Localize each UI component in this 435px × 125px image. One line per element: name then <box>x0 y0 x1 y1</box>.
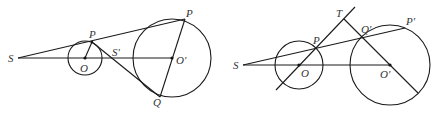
right-figure: S T P O Q' P' O' <box>233 7 430 105</box>
label-O-prime: O' <box>176 54 187 66</box>
center-point-O <box>83 56 86 59</box>
line-T-O-prime <box>344 19 418 93</box>
label-T: T <box>336 7 343 19</box>
label-O: O <box>301 67 309 79</box>
secant-line-S-P-prime <box>243 28 405 65</box>
diagram-canvas: S P O S' P O' Q S T P O Q' P' O' <box>0 0 435 125</box>
line-through-O-P-T <box>276 7 355 90</box>
label-S: S <box>8 52 14 64</box>
left-figure: S P O S' P O' Q <box>8 7 211 108</box>
line-P-Q <box>92 42 160 97</box>
point-P <box>91 41 93 43</box>
label-Q: Q <box>153 96 161 108</box>
radius-OP <box>85 42 92 58</box>
label-O: O <box>80 62 88 74</box>
label-P-big: P <box>185 7 193 19</box>
label-P-prime: P' <box>405 15 416 27</box>
center-point-O-prime <box>388 63 391 66</box>
label-P-small: P <box>88 28 96 40</box>
label-Q-prime: Q' <box>361 23 372 35</box>
label-P: P <box>312 34 320 46</box>
label-S: S <box>233 59 239 71</box>
center-point-O-prime <box>170 56 173 59</box>
label-O-prime: O' <box>380 68 391 80</box>
label-S-prime: S' <box>112 46 121 58</box>
